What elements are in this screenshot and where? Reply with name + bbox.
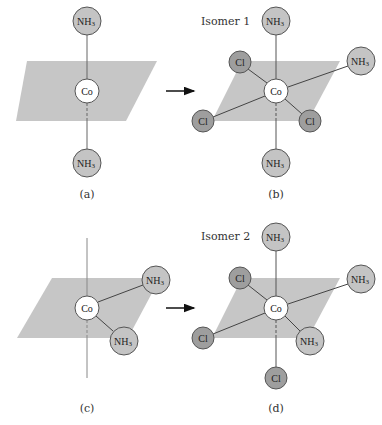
ligand-nh3-top: NH3 — [73, 7, 101, 35]
svg-text:Cl: Cl — [198, 333, 208, 344]
isomer-2-title: Isomer 2 — [201, 230, 250, 243]
ligand-nh3-top: NH3 — [262, 7, 290, 35]
cobalt-atom: Co — [75, 296, 99, 320]
ligand-nh3-bottom: NH3 — [73, 149, 101, 177]
cobalt-atom: Co — [75, 79, 99, 103]
caption-b: (b) — [268, 188, 284, 201]
svg-text:Cl: Cl — [271, 373, 281, 384]
panel-c: Co NH3 NH3 (c) — [17, 238, 170, 415]
octahedral-isomers-diagram: NH3 Co NH3 (a) Isomer 1 NH3 Cl — [0, 0, 382, 425]
ligand-nh3-upper-right: NH3 — [142, 266, 170, 294]
ligand-nh3-top: NH3 — [262, 223, 290, 251]
svg-text:Cl: Cl — [198, 116, 208, 127]
isomer-1-title: Isomer 1 — [201, 15, 250, 28]
ligand-nh3-bottom: NH3 — [262, 149, 290, 177]
ligand-cl-upper-left: Cl — [229, 51, 251, 73]
panel-a: NH3 Co NH3 (a) — [16, 7, 157, 201]
caption-c: (c) — [80, 402, 95, 415]
cobalt-atom: Co — [264, 296, 288, 320]
svg-text:Cl: Cl — [235, 273, 245, 284]
svg-text:Co: Co — [270, 86, 282, 97]
svg-text:Co: Co — [81, 86, 93, 97]
panel-b: Isomer 1 NH3 Cl NH3 Co Cl — [192, 7, 375, 201]
ligand-nh3-lower-right: NH3 — [296, 327, 324, 355]
svg-text:Cl: Cl — [235, 57, 245, 68]
ligand-cl-lower-right: Cl — [299, 110, 321, 132]
ligand-cl-bottom: Cl — [265, 367, 287, 389]
ligand-cl-lower-left: Cl — [192, 110, 214, 132]
cobalt-atom: Co — [264, 79, 288, 103]
ligand-nh3-right: NH3 — [347, 265, 375, 293]
panel-d: Isomer 2 NH3 Cl NH3 Co Cl — [192, 223, 375, 415]
svg-text:Cl: Cl — [305, 116, 315, 127]
caption-d: (d) — [268, 402, 284, 415]
svg-text:Co: Co — [81, 303, 93, 314]
svg-text:Co: Co — [270, 303, 282, 314]
ligand-nh3-lower-right: NH3 — [110, 327, 138, 355]
ligand-cl-upper-left: Cl — [229, 267, 251, 289]
ligand-nh3-right: NH3 — [347, 47, 375, 75]
ligand-cl-lower-left: Cl — [192, 327, 214, 349]
caption-a: (a) — [79, 188, 94, 201]
